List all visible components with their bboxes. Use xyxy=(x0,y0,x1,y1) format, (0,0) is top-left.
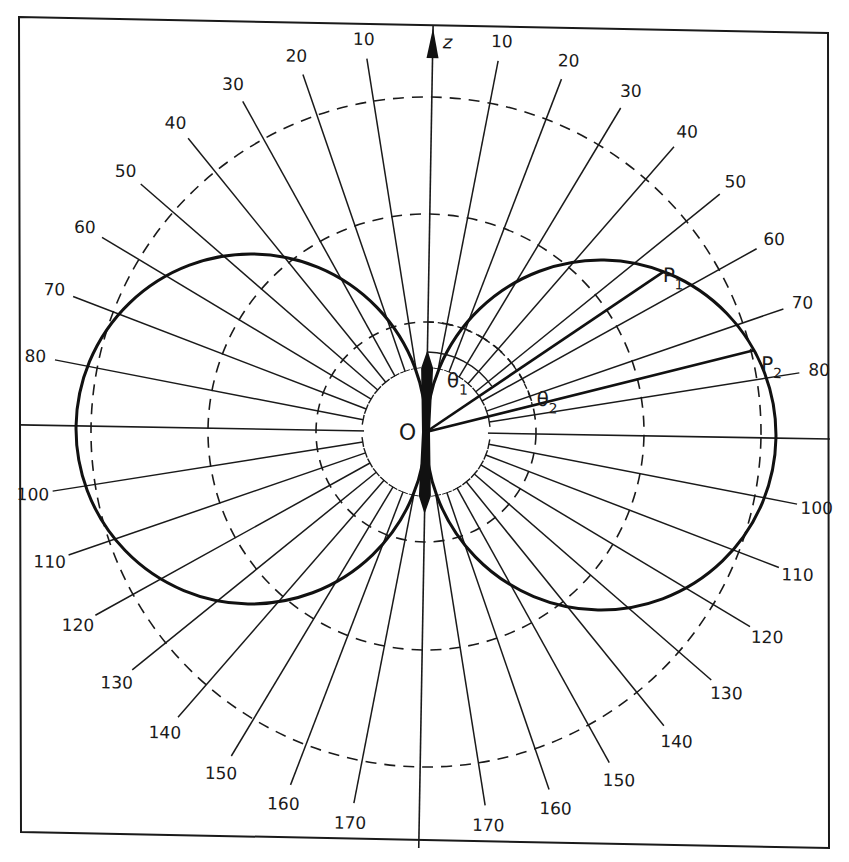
angle-label-left-110: 110 xyxy=(33,551,66,572)
inner-tick xyxy=(488,439,490,449)
angle-label-right-10: 10 xyxy=(491,31,513,51)
angle-label-right-100: 100 xyxy=(800,498,833,519)
angle-label-right-80: 80 xyxy=(808,360,830,380)
angle-label-left-150: 150 xyxy=(205,763,238,784)
angle-label-left-80: 80 xyxy=(24,346,46,366)
p1-label: P1 xyxy=(662,263,683,292)
angle-label-left-10: 10 xyxy=(353,29,375,49)
angle-label-left-60: 60 xyxy=(74,217,96,237)
z-axis-arrow-icon xyxy=(427,28,440,58)
angle-label-right-170: 170 xyxy=(472,815,505,836)
theta2-label: θ2 xyxy=(536,387,558,416)
origin-label: O xyxy=(399,420,417,445)
angle-label-left-160: 160 xyxy=(267,793,300,814)
polar-pattern-figure: z 10203040506070801001101201301401501601… xyxy=(0,0,849,862)
angle-label-right-130: 130 xyxy=(710,683,743,704)
angle-label-left-70: 70 xyxy=(43,279,65,299)
angle-label-right-60: 60 xyxy=(763,229,785,249)
angle-label-left-20: 20 xyxy=(285,45,307,65)
inner-tick xyxy=(362,437,364,447)
angle-label-left-100: 100 xyxy=(17,484,50,505)
angle-label-right-140: 140 xyxy=(660,731,693,752)
angle-label-right-160: 160 xyxy=(539,798,572,819)
angle-label-left-30: 30 xyxy=(222,74,244,94)
angle-label-right-40: 40 xyxy=(676,121,698,141)
inner-tick xyxy=(362,415,364,425)
angle-label-right-30: 30 xyxy=(620,81,642,101)
angle-label-right-150: 150 xyxy=(603,770,636,791)
angle-label-right-70: 70 xyxy=(791,292,813,312)
angle-label-right-110: 110 xyxy=(781,564,814,585)
angle-label-left-170: 170 xyxy=(334,812,367,833)
angle-label-right-50: 50 xyxy=(724,171,746,191)
z-axis-label: z xyxy=(442,31,453,52)
angle-label-left-40: 40 xyxy=(165,113,187,133)
angle-label-left-50: 50 xyxy=(115,161,137,181)
angle-label-left-130: 130 xyxy=(100,672,133,693)
inner-tick xyxy=(488,417,490,427)
angle-label-left-140: 140 xyxy=(148,722,181,743)
angle-label-right-20: 20 xyxy=(558,50,580,70)
angle-label-right-120: 120 xyxy=(751,627,784,648)
angle-label-left-120: 120 xyxy=(62,615,95,636)
